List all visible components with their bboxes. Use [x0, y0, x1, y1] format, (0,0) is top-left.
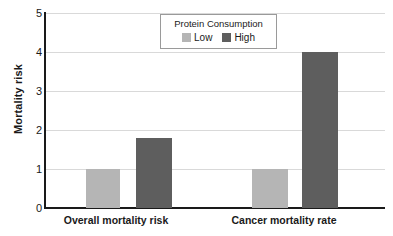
legend-label-low: Low — [194, 33, 212, 43]
y-tick-label-5: 5 — [22, 8, 42, 19]
legend-entry-low: Low — [182, 33, 212, 43]
legend-entries: Low High — [166, 33, 271, 43]
legend-title: Protein Consumption — [166, 19, 271, 30]
legend: Protein Consumption Low High — [160, 14, 277, 49]
legend-swatch-low-icon — [182, 33, 191, 42]
x-category-label-overall: Overall mortality risk — [54, 214, 178, 226]
legend-swatch-high-icon — [222, 33, 231, 42]
x-category-label-cancer: Cancer mortality rate — [222, 214, 346, 226]
y-tick-label-3: 3 — [22, 86, 42, 97]
bar-overall-low — [86, 169, 120, 208]
bar-chart: Mortality risk 5 4 3 2 1 0 Overall morta… — [0, 0, 393, 236]
y-tick-label-0: 0 — [22, 203, 42, 214]
bar-cancer-low — [252, 169, 288, 208]
legend-label-high: High — [234, 33, 255, 43]
y-tick-label-4: 4 — [22, 47, 42, 58]
bar-overall-high — [136, 138, 172, 208]
y-tick-label-1: 1 — [22, 164, 42, 175]
legend-entry-high: High — [222, 33, 255, 43]
bar-cancer-high — [302, 52, 338, 208]
y-tick-label-2: 2 — [22, 125, 42, 136]
